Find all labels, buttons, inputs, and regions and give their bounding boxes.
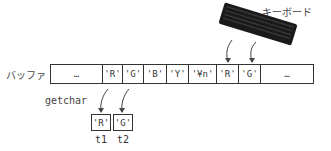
keyboard-label: キーボード (262, 4, 312, 19)
buffer-cell: 'R' (217, 65, 239, 83)
buffer-cell: '¥n' (189, 65, 217, 83)
buffer-cell: 'B' (144, 65, 167, 83)
variable-t1-box: 'R' (91, 114, 111, 131)
buffer: … 'R' 'G' 'B' 'Y' '¥n' 'R' 'G' … (50, 64, 314, 84)
buffer-cell: 'R' (103, 65, 123, 83)
buffer-cell: … (261, 65, 313, 83)
buffer-cell: … (51, 65, 103, 83)
variable-t2-name: t2 (112, 134, 134, 145)
buffer-label: バッファ (6, 67, 46, 82)
variable-t1-name: t1 (90, 134, 112, 145)
variable-t2-box: 'G' (113, 114, 133, 131)
buffer-to-variable-arrows (101, 89, 129, 112)
buffer-cell: 'G' (123, 65, 144, 83)
buffer-cell: 'Y' (167, 65, 189, 83)
getchar-label: getchar (45, 95, 87, 106)
buffer-cell: 'G' (239, 65, 261, 83)
